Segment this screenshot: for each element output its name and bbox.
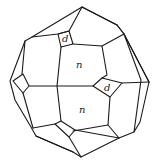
edge <box>82 7 117 25</box>
outline-edge <box>10 7 149 157</box>
polyhedron-edges <box>10 7 149 157</box>
lower-face <box>55 121 75 137</box>
lower-n-label: n <box>79 104 85 115</box>
upper-d-label: d <box>62 33 68 44</box>
edge <box>75 130 119 138</box>
edge <box>69 137 81 157</box>
edge <box>57 47 61 121</box>
edge <box>102 25 124 46</box>
edge <box>124 34 149 82</box>
left-face <box>13 74 29 93</box>
edge <box>33 124 55 128</box>
edge <box>122 82 149 83</box>
upper-n-label: n <box>76 59 82 70</box>
edge <box>36 136 73 152</box>
right-d-label: d <box>104 82 110 93</box>
crystal-diagram: d n d n <box>0 0 155 166</box>
